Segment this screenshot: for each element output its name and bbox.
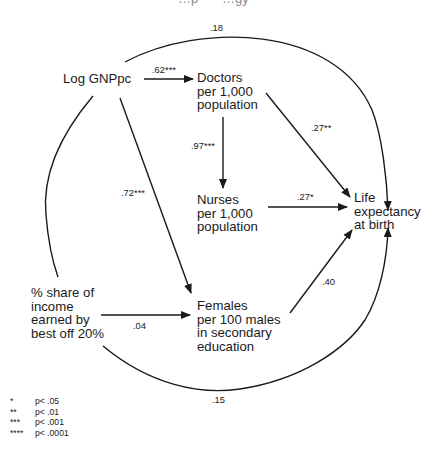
coef-income-females: .04 bbox=[133, 320, 146, 331]
legend-row: * p< .05 bbox=[10, 396, 69, 407]
node-label: per 1,000 bbox=[197, 207, 258, 221]
legend-stars: * bbox=[10, 396, 35, 407]
coef-females-life: .40 bbox=[322, 276, 335, 287]
legend-p-value: p< .0001 bbox=[35, 428, 69, 439]
node-life-expectancy: Life expectancy at birth bbox=[354, 191, 421, 232]
node-income-share: % share of income earned by best off 20% bbox=[31, 286, 104, 340]
node-label: Doctors bbox=[197, 71, 258, 85]
node-nurses: Nurses per 1,000 population bbox=[197, 193, 258, 234]
legend-stars: **** bbox=[10, 428, 35, 439]
node-label: income bbox=[31, 300, 104, 314]
legend-row: ** p< .01 bbox=[10, 407, 69, 418]
legend-p-value: p< .01 bbox=[35, 407, 59, 418]
node-label: Log GNPpc bbox=[63, 72, 131, 86]
coef-gnp-doctors: .62*** bbox=[152, 64, 176, 75]
legend-row: **** p< .0001 bbox=[10, 428, 69, 439]
node-doctors: Doctors per 1,000 population bbox=[197, 71, 258, 112]
node-label: % share of bbox=[31, 286, 104, 300]
edge-gnp-income-correlation bbox=[45, 96, 93, 277]
node-label: at birth bbox=[354, 218, 421, 232]
node-log-gnppc: Log GNPpc bbox=[63, 72, 131, 86]
node-label: Nurses bbox=[197, 193, 258, 207]
node-label: expectancy bbox=[354, 205, 421, 219]
node-label: education bbox=[197, 340, 281, 354]
node-females: Females per 100 males in secondary educa… bbox=[197, 299, 281, 353]
coef-gnp-females: .72*** bbox=[121, 187, 145, 198]
coef-doctors-life: .27** bbox=[311, 122, 331, 133]
edge-doctors-life bbox=[266, 93, 350, 197]
edge-females-life bbox=[290, 230, 352, 313]
coef-nurses-life: .27* bbox=[297, 191, 314, 202]
node-label: per 100 males bbox=[197, 313, 281, 327]
path-diagram: …p …gy bbox=[0, 0, 437, 460]
significance-legend: * p< .05 ** p< .01 *** p< .001 **** p< .… bbox=[10, 396, 69, 438]
node-label: population bbox=[197, 98, 258, 112]
node-label: earned by bbox=[31, 313, 104, 327]
node-label: best off 20% bbox=[31, 327, 104, 341]
node-label: Females bbox=[197, 299, 281, 313]
legend-p-value: p< .001 bbox=[35, 417, 64, 428]
legend-p-value: p< .05 bbox=[35, 396, 59, 407]
node-label: Life bbox=[354, 191, 421, 205]
coef-doctors-nurses: .97*** bbox=[191, 140, 215, 151]
legend-row: *** p< .001 bbox=[10, 417, 69, 428]
coef-income-life: .15 bbox=[212, 394, 225, 405]
legend-stars: *** bbox=[10, 417, 35, 428]
node-label: per 1,000 bbox=[197, 85, 258, 99]
node-label: population bbox=[197, 220, 258, 234]
node-label: in secondary bbox=[197, 326, 281, 340]
coef-gnp-life: .18 bbox=[210, 22, 223, 33]
legend-stars: ** bbox=[10, 407, 35, 418]
